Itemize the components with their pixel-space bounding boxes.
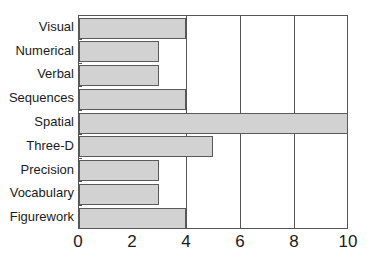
y-label: Visual xyxy=(39,19,74,35)
x-tick-label: 2 xyxy=(127,232,136,252)
bar-verbal xyxy=(79,65,159,86)
y-tick xyxy=(78,39,82,40)
y-tick xyxy=(78,134,82,135)
y-tick xyxy=(78,110,82,111)
x-tick-label: 8 xyxy=(289,232,298,252)
bar-vocabulary xyxy=(79,184,159,205)
y-label: Sequences xyxy=(9,90,74,106)
bar-spatial xyxy=(79,113,348,134)
y-label: Verbal xyxy=(37,66,74,82)
y-label: Figurework xyxy=(10,209,74,225)
y-tick xyxy=(78,63,82,64)
y-label: Spatial xyxy=(34,114,74,130)
y-label: Three-D xyxy=(26,138,74,154)
y-tick xyxy=(78,86,82,87)
y-label: Precision xyxy=(21,162,74,178)
plot-area xyxy=(78,15,348,229)
y-tick xyxy=(78,181,82,182)
x-tick-label: 10 xyxy=(339,232,358,252)
y-tick xyxy=(78,158,82,159)
bar-three-d xyxy=(79,136,213,157)
bar-precision xyxy=(79,160,159,181)
bar-sequences xyxy=(79,89,186,110)
bar-numerical xyxy=(79,41,159,62)
y-label: Numerical xyxy=(15,43,74,59)
bar-visual xyxy=(79,18,186,39)
x-tick-label: 4 xyxy=(181,232,190,252)
x-tick-label: 6 xyxy=(235,232,244,252)
y-label: Vocabulary xyxy=(10,185,74,201)
x-tick-label: 0 xyxy=(73,232,82,252)
y-tick xyxy=(78,205,82,206)
bar-figurework xyxy=(79,208,186,229)
